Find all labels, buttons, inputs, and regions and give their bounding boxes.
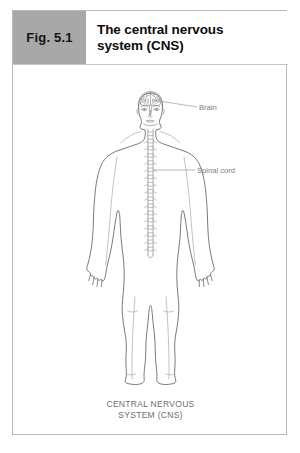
caption-line-2: SYSTEM (CNS) (13, 410, 288, 421)
figure-number-tab: Fig. 5.1 (13, 11, 86, 64)
caption-line-1: CENTRAL NERVOUS (13, 399, 288, 410)
figure-title-line-1: The central nervous (97, 22, 282, 38)
figure-title: The central nervous system (CNS) (86, 11, 288, 64)
figure-header: Fig. 5.1 The central nervous system (CNS… (13, 11, 288, 64)
body-outline-path (87, 93, 214, 385)
annotation-layer: Brain Spinal cord (153, 100, 235, 175)
spinal-cord-structure (145, 129, 157, 258)
body-contour-detail (106, 131, 196, 379)
spinal-cord-label: Spinal cord (197, 166, 235, 175)
figure-panel: Fig. 5.1 The central nervous system (CNS… (12, 10, 287, 435)
brain-leader-line (153, 100, 197, 107)
figure-title-line-2: system (CNS) (97, 38, 282, 54)
diagram-area: Brain Spinal cord CENTRAL NERVOUS SYSTEM… (13, 65, 288, 435)
human-body-diagram: Brain Spinal cord (13, 65, 288, 405)
brain-label: Brain (199, 103, 217, 112)
figure-caption: CENTRAL NERVOUS SYSTEM (CNS) (13, 399, 288, 421)
figure-number-label: Fig. 5.1 (26, 30, 72, 45)
